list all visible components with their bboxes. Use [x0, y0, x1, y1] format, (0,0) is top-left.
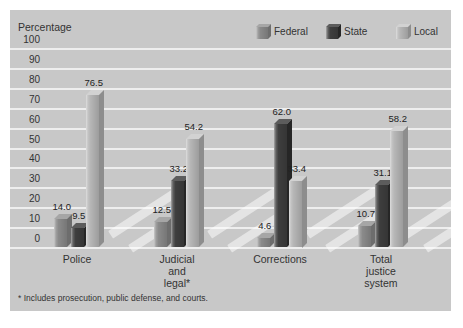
state-swatch-icon — [326, 27, 338, 39]
bar-judicial-state: 33.2 — [171, 181, 184, 247]
x-label-police: Police — [27, 253, 127, 265]
y-tick-label: 70 — [14, 94, 40, 106]
bar-judicial-federal: 12.5 — [154, 222, 167, 247]
bar-police-local: 76.5 — [86, 95, 99, 247]
gridline — [10, 128, 451, 130]
local-swatch-icon — [396, 27, 408, 39]
y-tick-label: 0 — [14, 233, 40, 245]
bar-corrections-local: 33.4 — [289, 181, 302, 248]
gridline — [10, 68, 451, 70]
federal-swatch-icon — [256, 27, 268, 39]
gridline — [10, 108, 451, 110]
legend-label-local: Local — [414, 26, 438, 37]
legend-label-federal: Federal — [274, 26, 308, 37]
x-label-judicial: Judicial and legal* — [127, 253, 227, 289]
x-label-total: Total justice system — [331, 253, 431, 289]
value-label: 4.6 — [258, 220, 271, 231]
gridline — [10, 48, 451, 50]
y-tick-label: 20 — [14, 193, 40, 205]
legend-item-federal: Federal — [256, 24, 308, 39]
value-label: 58.2 — [389, 113, 408, 124]
y-tick-label: 60 — [14, 114, 40, 126]
value-label: 62.0 — [273, 106, 292, 117]
bar-police-federal: 14.0 — [54, 219, 67, 247]
value-label: 12.5 — [153, 204, 172, 215]
legend-item-local: Local — [396, 24, 438, 39]
y-axis-title: Percentage — [18, 21, 72, 33]
bar-total-local: 58.2 — [390, 131, 403, 247]
y-tick-label: 10 — [14, 213, 40, 225]
value-label: 10.7 — [357, 208, 376, 219]
footnote: * Includes prosecution, public defense, … — [18, 293, 208, 303]
y-tick-label: 40 — [14, 153, 40, 165]
value-label: 76.5 — [85, 77, 104, 88]
bar-total-state: 31.1 — [375, 185, 388, 247]
value-label: 9.5 — [72, 210, 85, 221]
y-tick-label: 100 — [14, 34, 40, 46]
value-label: 14.0 — [53, 201, 72, 212]
gridline — [10, 88, 451, 90]
bar-corrections-federal: 4.6 — [257, 238, 270, 247]
value-label: 33.4 — [288, 163, 307, 174]
y-tick-label: 30 — [14, 173, 40, 185]
y-tick-label: 90 — [14, 54, 40, 66]
bar-police-state: 9.5 — [71, 228, 84, 247]
bar-judicial-local: 54.2 — [186, 139, 199, 247]
bar-total-federal: 10.7 — [358, 226, 371, 247]
gridline — [10, 148, 451, 150]
value-label: 54.2 — [185, 121, 204, 132]
legend-label-state: State — [344, 26, 367, 37]
chart-panel: Percentage 0102030405060708090100 Federa… — [10, 10, 451, 311]
x-label-corrections: Corrections — [230, 253, 330, 265]
y-tick-label: 80 — [14, 74, 40, 86]
legend-item-state: State — [326, 24, 367, 39]
bar-corrections-state: 62.0 — [274, 124, 287, 247]
y-tick-label: 50 — [14, 134, 40, 146]
